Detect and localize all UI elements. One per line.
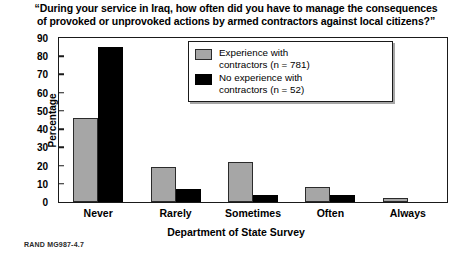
chart-figure: “During your service in Iraq, how often … (0, 0, 472, 263)
bar-rarely-series-1 (151, 167, 176, 202)
bar-sometimes-series-1 (228, 162, 253, 202)
x-axis-label: Department of State Survey (0, 226, 472, 238)
y-tick-label: 50 (20, 105, 48, 116)
legend-swatch-experience (195, 49, 212, 60)
chart-legend: Experience with contractors (n = 781) No… (188, 41, 393, 102)
x-tick-label-often: Often (317, 207, 344, 219)
y-tick-label: 0 (20, 197, 48, 208)
legend-item-no-experience: No experience with contractors (n = 52) (195, 72, 386, 95)
chart-title-line-1: “During your service in Iraq, how often … (0, 2, 472, 15)
legend-label-no-experience: No experience with contractors (n = 52) (219, 72, 304, 95)
legend-swatch-no-experience (195, 74, 212, 85)
legend-label-experience-line-1: Experience with (219, 47, 310, 59)
chart-title-line-2: of provoked or unprovoked actions by arm… (0, 15, 472, 28)
x-tick-label-sometimes: Sometimes (225, 207, 281, 219)
bar-never-series-1 (73, 118, 98, 202)
y-axis-label: Percentage (47, 61, 58, 181)
bar-often-series-1 (305, 187, 330, 202)
bar-often-series-2 (330, 195, 355, 202)
bar-never-series-2 (98, 47, 123, 202)
legend-label-no-experience-line-1: No experience with (219, 72, 304, 84)
x-tick-label-always: Always (390, 207, 426, 219)
y-tick-label: 10 (20, 178, 48, 189)
y-tick-label: 40 (20, 124, 48, 135)
y-tick-label: 20 (20, 160, 48, 171)
legend-label-no-experience-line-2: contractors (n = 52) (219, 84, 304, 96)
legend-label-experience: Experience with contractors (n = 781) (219, 47, 310, 70)
bar-sometimes-series-2 (253, 195, 278, 202)
figure-credit: RAND MG987-4.7 (24, 241, 84, 248)
bar-always-series-1 (383, 198, 408, 202)
x-tick-label-rarely: Rarely (160, 207, 192, 219)
bar-rarely-series-2 (176, 189, 201, 202)
x-tick-label-never: Never (84, 207, 113, 219)
legend-item-experience: Experience with contractors (n = 781) (195, 47, 386, 70)
y-tick-label: 80 (20, 51, 48, 62)
y-tick-label: 60 (20, 87, 48, 98)
chart-title: “During your service in Iraq, how often … (0, 2, 472, 28)
y-tick-label: 30 (20, 142, 48, 153)
legend-label-experience-line-2: contractors (n = 781) (219, 59, 310, 71)
y-tick-label: 70 (20, 69, 48, 80)
y-tick-label: 90 (20, 33, 48, 44)
